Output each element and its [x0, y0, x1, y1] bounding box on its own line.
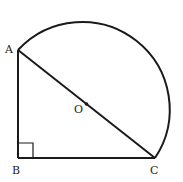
label-o: O — [74, 103, 83, 116]
label-a: A — [4, 43, 14, 56]
right-angle-marker — [18, 143, 33, 158]
label-b: B — [12, 164, 20, 177]
center-point-o — [85, 102, 89, 106]
label-c: C — [150, 164, 158, 177]
semicircle-arc — [18, 22, 170, 158]
geometry-diagram: A B C O — [0, 0, 183, 182]
